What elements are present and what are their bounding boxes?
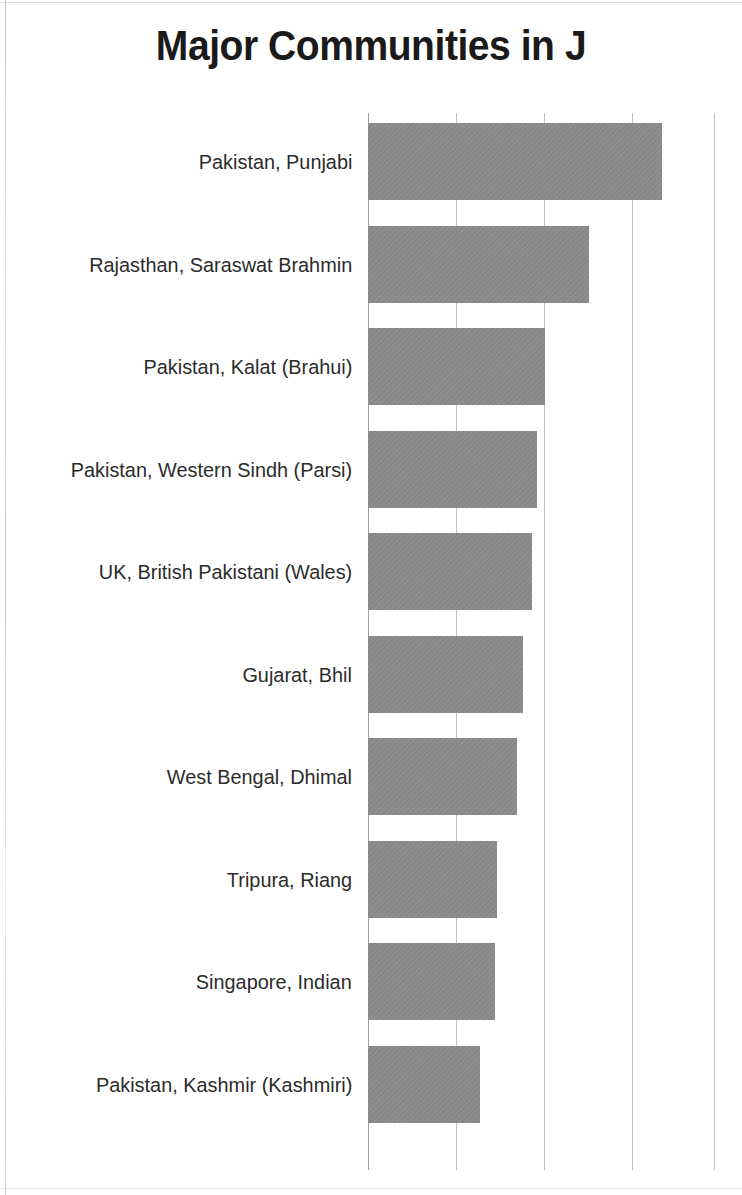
category-label: Pakistan, Western Sindh (Parsi): [71, 458, 352, 482]
category-label: Pakistan, Kalat (Brahui): [143, 355, 352, 379]
bar: [368, 328, 545, 405]
category-label: Singapore, Indian: [196, 970, 352, 994]
gridline-4: [714, 113, 715, 1170]
bar: [368, 738, 517, 815]
gridline-3: [632, 113, 633, 1170]
bar: [368, 123, 662, 200]
bar: [368, 533, 532, 610]
bar: [368, 636, 523, 713]
bar: [368, 841, 497, 918]
scanned-chart-page: Major Communities in J Pakistan, Punjabi…: [0, 0, 742, 1195]
category-label: Pakistan, Kashmir (Kashmiri): [96, 1073, 352, 1097]
category-label: UK, British Pakistani (Wales): [99, 560, 352, 584]
category-label: Rajasthan, Saraswat Brahmin: [89, 253, 352, 277]
bar: [368, 943, 495, 1020]
bar: [368, 431, 537, 508]
bar-chart-plot-area: Pakistan, PunjabiRajasthan, Saraswat Bra…: [0, 0, 742, 1195]
category-label: Pakistan, Punjabi: [198, 150, 352, 174]
category-label: Gujarat, Bhil: [243, 663, 352, 687]
bar: [368, 226, 589, 303]
category-label: Tripura, Riang: [227, 868, 352, 892]
bar: [368, 1046, 480, 1123]
category-label: West Bengal, Dhimal: [167, 765, 352, 789]
